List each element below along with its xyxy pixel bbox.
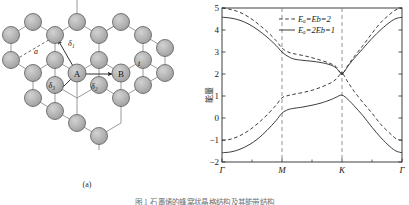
label-site-b: B <box>118 69 124 79</box>
lattice-atom <box>25 90 42 107</box>
lattice-svg: A B t a δ₁ δ₂ δ₃ <box>0 0 200 180</box>
lattice-atom <box>3 27 20 44</box>
lattice-atom <box>157 65 174 82</box>
y-tick-label: 1 <box>215 91 220 101</box>
lattice-atom-left <box>3 52 20 69</box>
y-axis-title: 能量 <box>204 87 214 103</box>
label-delta3: δ₃ <box>49 81 56 90</box>
panel-band-structure: 能量 −2−1012345ΓMKΓEₐ=Eb=2Eₐ=2Eb=1 (b) <box>200 0 409 205</box>
x-tick-label: K <box>338 165 346 175</box>
band-structure-svg: 能量 −2−1012345ΓMKΓEₐ=Eb=2Eₐ=2Eb=1 <box>200 0 409 180</box>
lattice-atom <box>113 90 130 107</box>
panel-a-caption: (a) <box>67 180 107 189</box>
label-delta1: δ₁ <box>68 39 75 48</box>
lattice-atom <box>69 115 86 132</box>
y-tick-label: 5 <box>215 3 220 13</box>
y-tick-label: 4 <box>215 25 220 35</box>
lattice-atom <box>91 128 108 145</box>
x-tick-label: Γ <box>218 165 225 175</box>
lattice-atom <box>135 27 152 44</box>
legend-label: Eₐ=2Eb=1 <box>297 25 335 35</box>
lattice-atom <box>91 27 108 44</box>
label-site-a: A <box>74 69 81 79</box>
lattice-atom <box>135 77 152 94</box>
x-tick-label: M <box>277 165 286 175</box>
lattice-atoms <box>3 14 174 145</box>
lattice-atom <box>157 40 174 57</box>
lattice-atom <box>47 52 64 69</box>
label-lattice-vector-a: a <box>34 47 38 56</box>
plot-layer: −2−1012345ΓMKΓEₐ=Eb=2Eₐ=2Eb=1 <box>209 3 405 175</box>
dirac-point <box>341 72 344 75</box>
lattice-atom-upper-left <box>47 27 64 44</box>
lattice-atom <box>25 14 42 31</box>
band-curve <box>222 95 402 153</box>
y-tick-label: 2 <box>215 69 220 79</box>
y-tick-label: 3 <box>215 47 220 57</box>
figure-caption: 图 1 石墨烯的蜂窝状晶格结构及其能带结构 <box>0 196 409 205</box>
y-tick-label: −1 <box>209 135 219 145</box>
lattice-atom <box>69 14 86 31</box>
lattice-atom <box>47 103 64 120</box>
panel-honeycomb-lattice: A B t a δ₁ δ₂ δ₃ (a) <box>0 0 200 205</box>
lattice-atom <box>113 14 130 31</box>
lattice-atom <box>91 52 108 69</box>
legend-label: Eₐ=Eb=2 <box>297 14 332 24</box>
y-tick-label: −2 <box>209 157 219 167</box>
label-delta2: δ₂ <box>91 82 98 91</box>
y-tick-label: 0 <box>215 113 220 123</box>
lattice-atom <box>25 65 42 82</box>
x-tick-label: Γ <box>398 165 405 175</box>
figure-root: A B t a δ₁ δ₂ δ₃ (a) 能量 −2−1012345ΓMKΓEₐ… <box>0 0 409 205</box>
